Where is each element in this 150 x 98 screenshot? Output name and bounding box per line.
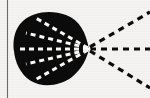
- figure-canvas: [0, 0, 150, 98]
- diagram-svg: [0, 0, 150, 98]
- convergence-point: [87, 47, 90, 50]
